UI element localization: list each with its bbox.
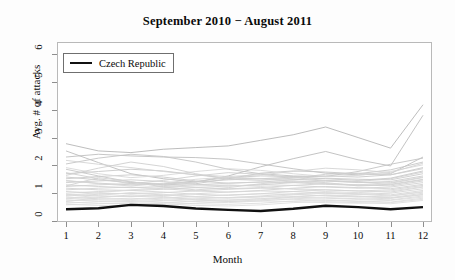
x-tick-mark xyxy=(163,222,164,227)
series-line xyxy=(66,199,423,205)
x-tick-mark xyxy=(358,222,359,227)
x-tick-mark xyxy=(326,222,327,227)
x-tick-label: 12 xyxy=(412,230,434,241)
x-tick-mark xyxy=(261,222,262,227)
x-tick-mark xyxy=(423,222,424,227)
x-tick-mark xyxy=(391,222,392,227)
y-tick-label: 2 xyxy=(33,156,44,174)
x-tick-label: 6 xyxy=(217,230,239,241)
legend-label-czech-republic: Czech Republic xyxy=(99,58,166,69)
x-tick-mark xyxy=(293,222,294,227)
x-tick-label: 4 xyxy=(152,230,174,241)
x-axis-label: Month xyxy=(0,253,455,265)
chart-figure: September 2010 − August 2011 Avg. # of a… xyxy=(0,0,455,280)
x-tick-label: 8 xyxy=(282,230,304,241)
x-tick-mark xyxy=(98,222,99,227)
y-tick-label: 1 xyxy=(33,184,44,202)
chart-title: September 2010 − August 2011 xyxy=(0,14,455,29)
x-tick-label: 2 xyxy=(87,230,109,241)
x-tick-label: 11 xyxy=(380,230,402,241)
x-tick-label: 7 xyxy=(250,230,272,241)
x-tick-mark xyxy=(228,222,229,227)
y-tick-label: 4 xyxy=(33,100,44,118)
series-line xyxy=(66,105,423,153)
x-tick-label: 1 xyxy=(55,230,77,241)
legend-line-swatch xyxy=(70,62,92,65)
legend: Czech Republic xyxy=(63,53,174,73)
x-tick-label: 5 xyxy=(185,230,207,241)
x-tick-mark xyxy=(66,222,67,227)
y-tick-label: 5 xyxy=(33,72,44,90)
y-tick-label: 3 xyxy=(33,128,44,146)
x-tick-label: 9 xyxy=(315,230,337,241)
x-tick-mark xyxy=(131,222,132,227)
y-tick-label: 0 xyxy=(33,212,44,230)
x-tick-label: 10 xyxy=(347,230,369,241)
x-tick-mark xyxy=(196,222,197,227)
y-tick-label: 6 xyxy=(33,45,44,63)
x-tick-label: 3 xyxy=(120,230,142,241)
